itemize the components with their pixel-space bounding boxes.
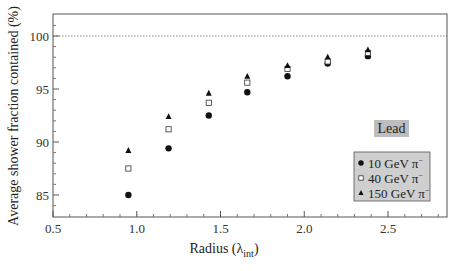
series-40-gev <box>126 50 371 171</box>
legend: 10 GeV π−40 GeV π−150 GeV π− <box>354 152 430 201</box>
x-axis: 0.51.01.52.02.5 <box>45 211 438 236</box>
square-marker <box>126 166 131 171</box>
legend-item: 40 GeV π− <box>359 171 424 186</box>
svg-text:Lead: Lead <box>378 121 406 136</box>
data-points <box>125 46 371 198</box>
legend-item: 10 GeV π− <box>358 156 423 171</box>
x-tick-label: 1.0 <box>129 221 145 236</box>
x-tick-label: 2.5 <box>380 221 396 236</box>
series-150-gev <box>125 46 371 153</box>
triangle-marker <box>365 46 371 52</box>
circle-marker <box>125 192 131 198</box>
x-tick-label: 1.5 <box>212 221 228 236</box>
svg-text:10 GeV π−: 10 GeV π− <box>368 156 423 171</box>
y-tick-label: 100 <box>30 29 50 44</box>
triangle-marker <box>206 90 212 96</box>
x-tick-label: 2.0 <box>296 221 312 236</box>
triangle-marker <box>125 147 131 153</box>
circle-marker <box>284 73 290 79</box>
square-marker <box>206 100 211 105</box>
triangle-marker <box>166 113 172 119</box>
triangle-marker <box>325 54 331 60</box>
annotation-lead: Lead <box>374 120 409 137</box>
x-tick-label: 0.5 <box>45 221 61 236</box>
y-tick-label: 90 <box>36 135 49 150</box>
y-tick-label: 95 <box>36 82 49 97</box>
svg-text:150 GeV π−: 150 GeV π− <box>368 186 430 201</box>
square-marker <box>359 176 363 180</box>
square-marker <box>245 80 250 85</box>
svg-text:40 GeV π−: 40 GeV π− <box>368 171 423 186</box>
circle-marker <box>206 112 212 118</box>
circle-marker <box>244 89 250 95</box>
circle-marker <box>165 145 171 151</box>
triangle-marker <box>244 73 250 79</box>
triangle-marker <box>285 62 291 68</box>
x-axis-title: Radius (λint) <box>189 241 258 259</box>
square-marker <box>166 127 171 132</box>
chart-figure: 0.51.01.52.02.5 859095100 Radius (λint) … <box>0 0 457 271</box>
y-axis: 859095100 <box>30 25 60 205</box>
y-tick-label: 85 <box>36 188 49 203</box>
square-marker <box>325 59 330 64</box>
legend-item: 150 GeV π− <box>358 186 429 201</box>
y-axis-title: Average shower fraction contained (%) <box>6 6 22 226</box>
circle-marker <box>358 160 363 165</box>
